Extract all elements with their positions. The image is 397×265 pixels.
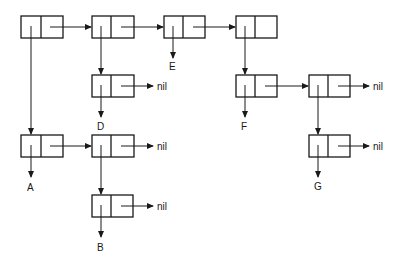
label-nil-b: nil — [157, 201, 167, 212]
label-b: B — [97, 242, 104, 253]
cons-cell-diagram: E D nil F nil A nil G nil B nil — [0, 0, 397, 265]
label-e: E — [169, 61, 176, 72]
label-a: A — [27, 182, 34, 193]
label-nil-g: nil — [373, 141, 383, 152]
cons-cell-top-4 — [236, 16, 277, 38]
label-f: F — [241, 121, 247, 132]
label-d: D — [97, 121, 104, 132]
label-g: G — [314, 181, 322, 192]
label-nil-d: nil — [157, 81, 167, 92]
label-nil-g-parent: nil — [373, 81, 383, 92]
label-nil-ab: nil — [157, 141, 167, 152]
